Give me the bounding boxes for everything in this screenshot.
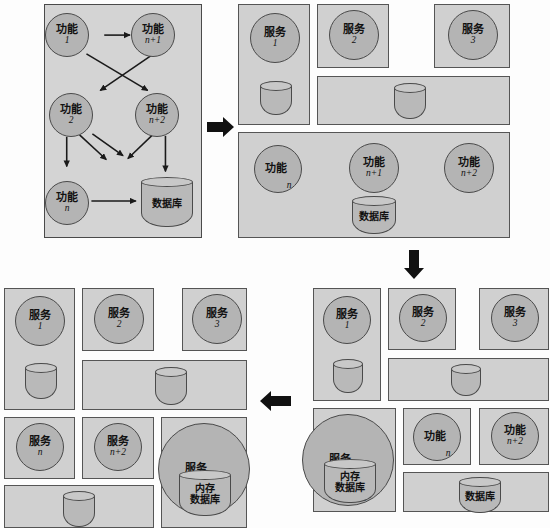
stage4-service-2: 服务 2: [94, 294, 144, 344]
stage1-node-f1: 功能 1: [45, 13, 89, 57]
cylinder-top: [141, 177, 193, 187]
stage2-function-n: 功能 n: [254, 145, 302, 193]
stage2-service-2: 服务 2: [329, 10, 379, 60]
stage2-monolith-remainder-box: 功能 n 功能 n+1 功能 n+2 数据库: [238, 132, 510, 238]
stage4-service-3: 服务 3: [192, 294, 242, 344]
stage3-service-n1-box: 服务 n+1 内存 数据库: [313, 408, 396, 512]
node-label: 功能: [265, 163, 287, 175]
node-sublabel: n: [446, 449, 451, 460]
stage1-node-fn2: 功能 n+2: [135, 93, 179, 137]
cylinder-top: [352, 196, 396, 206]
stage2-shared-database-box: [317, 76, 510, 125]
cylinder-label: 数据库: [141, 195, 193, 210]
arrow-down-stage2-to-stage3: [403, 250, 425, 280]
stage4-service-n1-box: 服务 n+1 内存 数据库: [161, 417, 247, 528]
stage3-shared-database: [451, 364, 481, 396]
node-sublabel: 3: [471, 36, 476, 46]
stage4-database-strip-1: [82, 360, 247, 410]
stage3-service2-box: 服务 2: [388, 288, 456, 350]
stage3-service3-box: 服务 3: [479, 288, 549, 350]
stage2-group: 服务 1 服务 2 服务 3: [238, 4, 546, 238]
stage2-service1-database: [260, 81, 292, 115]
stage4-service-1: 服务 1: [15, 296, 65, 346]
stage4-service1-database: [25, 363, 57, 399]
stage2-shared-database: [394, 83, 426, 119]
stage3-in-memory-database: 内存 数据库: [324, 459, 376, 503]
stage1-node-fn: 功能 n: [45, 181, 89, 225]
stage2-service2-box: 服务 2: [317, 4, 389, 68]
cylinder-label: 数据库: [459, 488, 501, 503]
stage4-service-n: 服务 n: [16, 423, 64, 471]
memdb-line2: 数据库: [190, 494, 220, 505]
stage4-strip2-database: [63, 491, 95, 527]
stage3-service1-box: 服务 1: [313, 288, 381, 401]
node-sublabel: 2: [352, 36, 357, 46]
node-sublabel: 1: [345, 321, 350, 331]
stage2-function-n1: 功能 n+1: [349, 143, 399, 193]
stage2-service3-box: 服务 3: [434, 4, 510, 68]
node-sublabel: n: [65, 204, 70, 214]
node-sublabel: 1: [65, 36, 70, 46]
node-sublabel: n+1: [366, 169, 382, 179]
node-sublabel: 3: [513, 319, 518, 329]
memdb-line2: 数据库: [335, 482, 365, 493]
memdb-line1: 内存: [340, 471, 360, 482]
node-sublabel: n+2: [461, 169, 477, 179]
cylinder-label: 内存 数据库: [179, 483, 231, 505]
cylinder-top: [63, 491, 95, 501]
stage2-service1-box: 服务 1: [238, 4, 310, 125]
cylinder-top: [155, 367, 187, 377]
node-sublabel: n+2: [149, 116, 165, 126]
stage3-group: 服务 1 服务 2 服务 3: [313, 288, 549, 512]
memdb-line1: 内存: [195, 483, 215, 494]
stage4-service-n-box: 服务 n: [4, 417, 75, 479]
stage2-service-3: 服务 3: [448, 10, 498, 60]
node-sublabel: 1: [273, 39, 278, 49]
stage3-service-2: 服务 2: [399, 294, 447, 342]
arrow-right-stage1-to-stage2: [207, 116, 235, 138]
stage4-service3-box: 服务 3: [182, 288, 247, 351]
stage4-service-n2: 服务 n+2: [94, 423, 142, 471]
cylinder-label: 数据库: [352, 208, 396, 223]
node-sublabel: n+2: [507, 437, 523, 447]
stage4-database-strip-2: [4, 485, 154, 528]
stage3-function-n: 功能 n: [413, 413, 461, 461]
cylinder-top: [459, 477, 501, 487]
cylinder-top: [25, 363, 57, 373]
cylinder-top: [324, 459, 376, 469]
cylinder-label: 内存 数据库: [324, 471, 376, 493]
cylinder-top: [451, 364, 481, 374]
node-label: 功能: [424, 431, 446, 443]
stage2-remainder-database: 数据库: [352, 196, 396, 234]
node-sublabel: 2: [421, 319, 426, 329]
node-sublabel: n: [38, 448, 43, 458]
node-sublabel: 2: [69, 116, 74, 126]
node-sublabel: 3: [215, 320, 220, 330]
stage3-remainder-database-box: 数据库: [403, 472, 549, 512]
cylinder-top: [333, 359, 363, 369]
stage3-service-1: 服务 1: [323, 296, 371, 344]
stage1-monolith-panel: 功能 1 功能 n+1 功能 2 功能 n+2 功能 n 数据库: [44, 4, 202, 238]
stage3-service-3: 服务 3: [491, 294, 539, 342]
stage3-shared-database-box: [388, 358, 549, 401]
stage1-database-cylinder: 数据库: [141, 177, 193, 227]
stage3-remainder-database: 数据库: [459, 477, 501, 513]
stage1-node-f2: 功能 2: [49, 93, 93, 137]
stage3-function-n2-box: 功能 n+2: [479, 408, 549, 465]
stage2-function-n2: 功能 n+2: [444, 143, 494, 193]
stage4-service-n2-box: 服务 n+2: [82, 417, 154, 479]
stage4-service2-box: 服务 2: [82, 288, 154, 351]
stage3-function-n-box: 功能 n: [403, 408, 471, 465]
stage3-service1-database: [333, 359, 363, 393]
node-sublabel: 1: [38, 322, 43, 332]
cylinder-top: [260, 81, 292, 91]
arrow-left-stage3-to-stage4: [259, 390, 291, 412]
node-sublabel: n+1: [145, 36, 161, 46]
node-sublabel: n: [287, 181, 292, 192]
stage3-function-n2: 功能 n+2: [491, 412, 539, 460]
stage2-service-1: 服务 1: [250, 13, 300, 63]
cylinder-top: [394, 83, 426, 93]
stage4-service1-box: 服务 1: [4, 288, 75, 410]
cylinder-top: [179, 470, 231, 480]
